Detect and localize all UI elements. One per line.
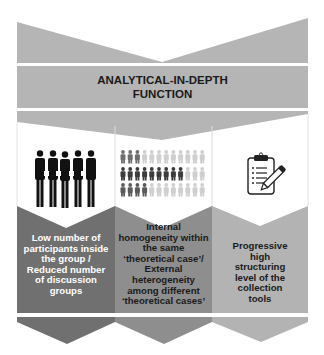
column-2-chevron: [115, 317, 212, 344]
middle-chevron-band: [17, 111, 308, 140]
function-title: ANALYTICAL-IN-DEPTH FUNCTION: [17, 66, 308, 108]
title-line-1: ANALYTICAL-IN-DEPTH: [97, 73, 228, 87]
column-2-text: Internal homogeneity within the same ‘th…: [115, 222, 212, 307]
column-3-text: Progressive high structuring level of th…: [212, 241, 308, 305]
people-pictogram-grid-icon: [120, 150, 208, 198]
column-1-text: Low number of participants inside the gr…: [17, 233, 115, 297]
clipboard-pencil-icon: [246, 152, 292, 198]
group-of-people-icon: [34, 150, 100, 208]
title-line-2: FUNCTION: [133, 87, 192, 101]
column-1-chevron: [17, 317, 115, 344]
top-chevron-band: [17, 18, 308, 63]
column-3-chevron: [212, 317, 308, 342]
